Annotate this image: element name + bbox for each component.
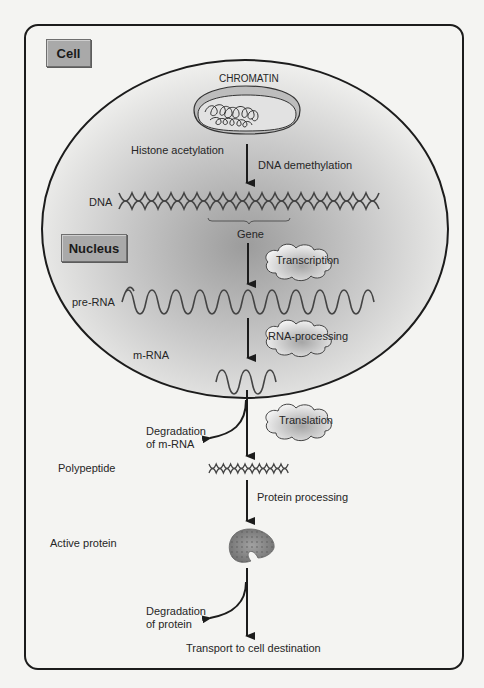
degradation-mrna-label: Degradation of m-RNA bbox=[146, 425, 206, 451]
degradation-mrna-line1: Degradation bbox=[146, 425, 206, 438]
arrow-mrna-degradation bbox=[210, 400, 246, 438]
chromatin-icon bbox=[194, 86, 300, 134]
diagram-canvas bbox=[0, 0, 484, 688]
histone-acetylation-label: Histone acetylation bbox=[131, 144, 224, 157]
active-protein-label: Active protein bbox=[50, 537, 117, 550]
degradation-protein-line2: of protein bbox=[146, 618, 206, 631]
dna-demethylation-label: DNA demethylation bbox=[258, 159, 352, 172]
transcription-label: Transcription bbox=[276, 254, 332, 266]
polypeptide-chain bbox=[209, 464, 288, 473]
degradation-protein-label: Degradation of protein bbox=[146, 605, 206, 631]
dna-label: DNA bbox=[89, 196, 112, 209]
arrow-protein-degradation bbox=[210, 582, 246, 618]
degradation-mrna-line2: of m-RNA bbox=[146, 438, 206, 451]
chromatin-label: CHROMATIN bbox=[219, 72, 279, 85]
pre-rna-label: pre-RNA bbox=[72, 296, 115, 309]
m-rna-label: m-RNA bbox=[133, 349, 169, 362]
polypeptide-label: Polypeptide bbox=[58, 462, 116, 475]
nucleus-label-box: Nucleus bbox=[61, 234, 127, 262]
rna-processing-label: RNA-processing bbox=[268, 330, 338, 342]
gene-label: Gene bbox=[237, 228, 264, 241]
transport-label: Transport to cell destination bbox=[186, 642, 321, 655]
protein-processing-label: Protein processing bbox=[257, 491, 348, 504]
translation-label: Translation bbox=[278, 414, 334, 426]
degradation-protein-line1: Degradation bbox=[146, 605, 206, 618]
cell-label-box: Cell bbox=[46, 39, 91, 67]
active-protein-icon bbox=[229, 529, 274, 562]
